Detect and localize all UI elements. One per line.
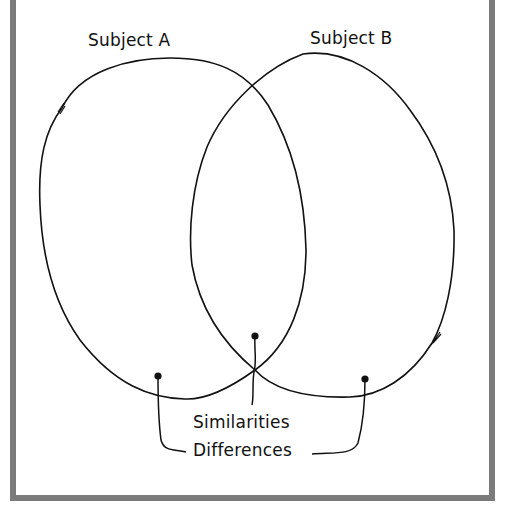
pointer-similarity (252, 336, 255, 405)
label-similarities: Similarities (193, 412, 290, 432)
circle-subject-b (191, 53, 455, 397)
label-subject-b: Subject B (310, 28, 392, 48)
bracket-difference-a (158, 376, 186, 452)
bracket-difference-b (312, 379, 365, 454)
label-subject-a: Subject A (88, 30, 170, 50)
venn-diagram (0, 0, 505, 513)
label-differences: Differences (193, 440, 292, 460)
circle-subject-a (40, 58, 306, 399)
